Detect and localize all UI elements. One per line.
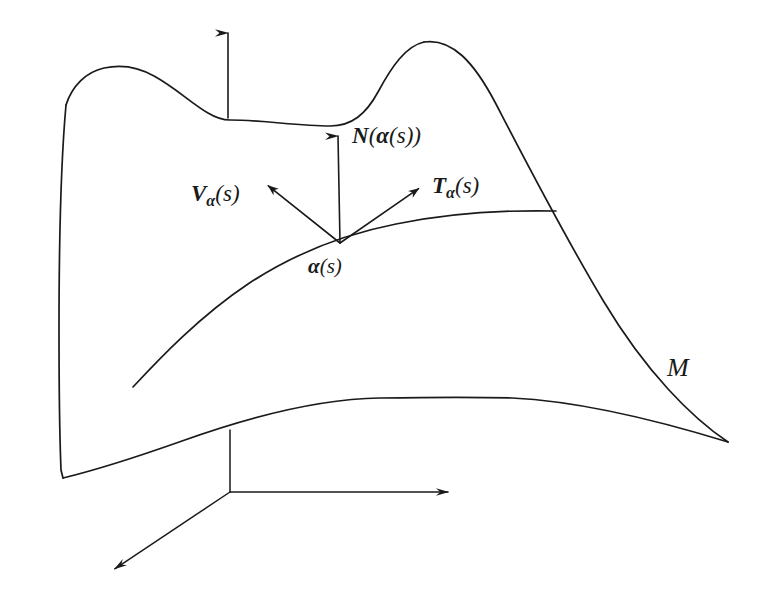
alpha-symbol: α: [376, 123, 389, 148]
v-vector-label-close-paren: ): [232, 181, 240, 206]
v-vector-label-subscript-alpha: α: [206, 192, 215, 209]
normal-vector-arrow: [338, 136, 340, 243]
figure-canvas: N(α(s)) Vα(s) Tα(s) α(s) M: [0, 0, 772, 609]
normal-vector-label-head: N: [352, 123, 369, 148]
t-vector-arrow: [340, 189, 419, 243]
normal-vector-label-arg-param: s: [397, 123, 406, 148]
v-vector-label-param: s: [223, 181, 232, 206]
axis-y-arrow: [115, 492, 230, 569]
surface-top-edge: [66, 42, 424, 126]
curve-alpha-path: [133, 211, 556, 387]
curve-point-label-alpha: α: [308, 254, 320, 278]
v-vector-label-open-paren: (: [215, 181, 223, 206]
t-vector-label-close-paren: ): [472, 173, 480, 198]
curve-point-label-param: s: [327, 254, 335, 278]
surface-left-edge: [59, 105, 66, 478]
curve-point-label-close-paren: ): [335, 254, 342, 278]
surface-bottom-edge: [63, 397, 728, 478]
curve-point-label-open-paren: (: [320, 254, 327, 278]
normal-vector-label: N(α(s)): [352, 124, 421, 147]
v-vector-arrow: [268, 186, 340, 243]
surface-label-text: M: [667, 353, 689, 382]
t-vector-label-open-paren: (: [455, 173, 463, 198]
curve-point-label: α(s): [308, 256, 342, 277]
surface-diagram-svg: [0, 0, 772, 609]
v-vector-label: Vα(s): [191, 182, 240, 209]
normal-vector-label-arg-open-paren: (: [389, 123, 397, 148]
v-vector-label-head: V: [191, 181, 206, 206]
t-vector-label-param: s: [463, 173, 472, 198]
surface-label: M: [667, 355, 689, 381]
t-vector-label: Tα(s): [432, 174, 479, 201]
t-vector-label-head: T: [432, 173, 446, 198]
normal-vector-label-close-paren: ): [413, 123, 421, 148]
t-vector-label-subscript-alpha: α: [446, 184, 455, 201]
